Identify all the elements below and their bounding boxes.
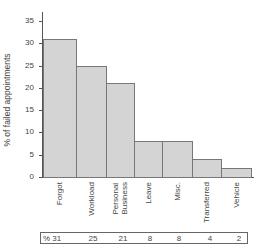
table-cell: 25	[83, 234, 103, 243]
table-cell: 2	[229, 234, 249, 243]
bar-personal-business	[106, 83, 135, 178]
table-cell: 8	[140, 234, 160, 243]
y-tick-label: 0	[4, 172, 34, 181]
percent-table: % 3125218842	[40, 232, 248, 244]
x-tick-label: Misc.	[173, 182, 182, 201]
y-tick-label: 5	[4, 150, 34, 159]
bar-transferred	[192, 159, 222, 178]
bar-leave	[134, 141, 163, 178]
bar-misc	[162, 141, 193, 178]
table-cell: 8	[169, 234, 189, 243]
y-tick-label: 35	[4, 16, 34, 25]
x-tick-label: Leave	[144, 182, 153, 204]
y-tick-label: 20	[4, 83, 34, 92]
x-tick-label: Workload	[87, 182, 96, 216]
x-tick-label: Transferred	[202, 182, 211, 223]
y-tick-label: 10	[4, 127, 34, 136]
table-cell: 4	[200, 234, 220, 243]
y-tick-label: 25	[4, 61, 34, 70]
y-tick-label: 30	[4, 38, 34, 47]
table-cell: 21	[113, 234, 133, 243]
x-tick-label: Forgot	[55, 182, 64, 205]
y-tick-label: 15	[4, 105, 34, 114]
x-tick-label: Vehicle	[232, 182, 241, 208]
table-cell: % 31	[43, 234, 73, 243]
bar-vehicle	[221, 168, 252, 178]
bar-workload	[76, 66, 107, 179]
x-tick-label: Personal Business	[111, 182, 129, 214]
bar-forgot	[43, 39, 77, 178]
